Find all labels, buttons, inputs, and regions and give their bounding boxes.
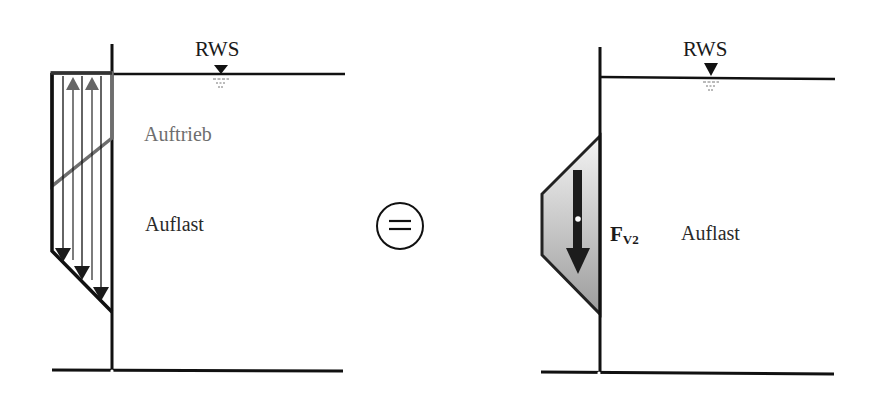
force-arrow-shaft <box>573 170 582 250</box>
resultant-load-region <box>542 136 600 314</box>
equivalence-diagram <box>0 0 885 409</box>
left-water-hatch-icon <box>213 79 229 87</box>
left-wall-foot <box>110 369 113 372</box>
equals-operator-icon <box>377 203 423 249</box>
left-ground-line <box>52 370 343 371</box>
auftrieb-label: Auftrieb <box>144 123 212 146</box>
force-application-point <box>575 216 581 222</box>
left-water-level-triangle-icon <box>214 65 228 74</box>
right-water-hatch-icon <box>703 82 719 90</box>
right-rws-label: RWS <box>683 37 727 62</box>
right-panel <box>541 47 835 375</box>
uplift-arrow-icon <box>85 77 99 90</box>
left-rws-label: RWS <box>195 37 239 62</box>
force-symbol: F <box>610 222 623 246</box>
force-subscript: V2 <box>623 232 639 247</box>
force-label: FV2 <box>610 222 639 248</box>
uplift-arrow-icon <box>66 77 80 90</box>
load-arrow-lines <box>63 76 101 291</box>
right-auflast-label: Auflast <box>681 222 740 245</box>
right-water-surface <box>600 77 835 79</box>
left-panel <box>51 44 345 373</box>
right-water-level-triangle-icon <box>704 63 718 76</box>
right-wall-foot <box>597 371 600 374</box>
left-auflast-label: Auflast <box>145 213 204 236</box>
right-ground-line <box>541 372 834 374</box>
